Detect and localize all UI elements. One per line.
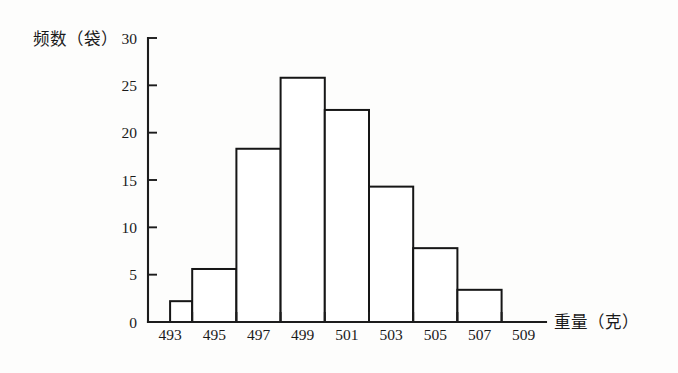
y-tick-label-0: 0 bbox=[129, 314, 137, 331]
y-tick-label-20: 20 bbox=[122, 124, 138, 141]
y-tick-label-10: 10 bbox=[122, 219, 138, 236]
x-tick-label-507: 507 bbox=[468, 326, 492, 343]
histogram-bar-3 bbox=[236, 149, 280, 322]
histogram-bar-1 bbox=[170, 301, 192, 322]
x-tick-label-503: 503 bbox=[379, 326, 403, 343]
y-axis-tick-labels: 051015202530 bbox=[122, 30, 138, 331]
x-tick-label-495: 495 bbox=[203, 326, 227, 343]
y-axis-ticks bbox=[148, 38, 157, 275]
histogram-bar-2 bbox=[192, 269, 236, 322]
y-tick-label-25: 25 bbox=[122, 77, 138, 94]
histogram-bar-6 bbox=[369, 187, 413, 322]
histogram-figure: 051015202530 493495497499501503505507509… bbox=[0, 0, 678, 373]
x-axis-title: 重量（克） bbox=[554, 313, 639, 332]
histogram-bar-5 bbox=[325, 110, 369, 322]
x-tick-label-497: 497 bbox=[247, 326, 271, 343]
y-tick-label-15: 15 bbox=[122, 172, 138, 189]
chart-canvas: 051015202530 493495497499501503505507509… bbox=[0, 0, 678, 373]
x-tick-label-501: 501 bbox=[335, 326, 358, 343]
bars-group bbox=[170, 78, 502, 322]
histogram-bar-4 bbox=[281, 78, 325, 322]
x-tick-label-505: 505 bbox=[424, 326, 448, 343]
x-tick-label-499: 499 bbox=[291, 326, 315, 343]
histogram-bar-8 bbox=[457, 290, 501, 322]
y-axis-title: 频数（袋） bbox=[33, 30, 118, 49]
y-tick-label-5: 5 bbox=[129, 266, 137, 283]
histogram-bar-7 bbox=[413, 248, 457, 322]
x-tick-label-509: 509 bbox=[512, 326, 536, 343]
y-tick-label-30: 30 bbox=[122, 30, 138, 47]
x-tick-label-493: 493 bbox=[158, 326, 182, 343]
x-axis-tick-labels: 493495497499501503505507509 bbox=[158, 326, 535, 343]
